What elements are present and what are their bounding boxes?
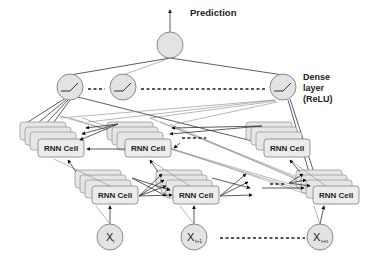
rnn-stack-top-2: RNN Cell bbox=[107, 122, 171, 157]
rnn-architecture-diagram: Prediction Dense layer (ReLU) RNN Cell R… bbox=[0, 0, 375, 259]
rnn-stack-bottom-3: RNN Cell bbox=[296, 170, 359, 204]
rnn-cell-label: RNN Cell bbox=[98, 191, 132, 200]
rnn-cell-label: RNN Cell bbox=[179, 191, 213, 200]
input-symbol: X bbox=[187, 231, 195, 243]
dense-neuron-2 bbox=[110, 74, 136, 100]
dense-neuron-3 bbox=[270, 74, 296, 100]
rnn-cell-label: RNN Cell bbox=[270, 144, 304, 153]
rnn-cell-label: RNN Cell bbox=[44, 144, 78, 153]
input-arrows bbox=[96, 206, 324, 224]
input-node-t-plus-n: X t+n bbox=[307, 224, 333, 250]
rnn-cell-label: RNN Cell bbox=[319, 191, 353, 200]
input-subscript: t+n bbox=[321, 238, 328, 244]
rnn-stack-bottom-1: RNN Cell bbox=[75, 170, 138, 204]
input-node-t: X t bbox=[97, 224, 123, 250]
prediction-node bbox=[157, 10, 183, 58]
input-symbol: X bbox=[313, 231, 321, 243]
rnn-stack-bottom-2: RNN Cell bbox=[156, 170, 219, 204]
rnn-cell-label: RNN Cell bbox=[131, 144, 165, 153]
rnn-stack-top-3: RNN Cell bbox=[246, 122, 310, 157]
rnn-stack-top-1: RNN Cell bbox=[20, 122, 84, 157]
output-connections bbox=[70, 58, 283, 75]
dense-layer-label: Dense layer (ReLU) bbox=[303, 72, 333, 104]
dense-neuron-1 bbox=[57, 74, 83, 100]
prediction-label: Prediction bbox=[190, 7, 237, 18]
input-subscript: t+1 bbox=[195, 238, 202, 244]
input-node-t-plus-1: X t+1 bbox=[181, 224, 207, 250]
